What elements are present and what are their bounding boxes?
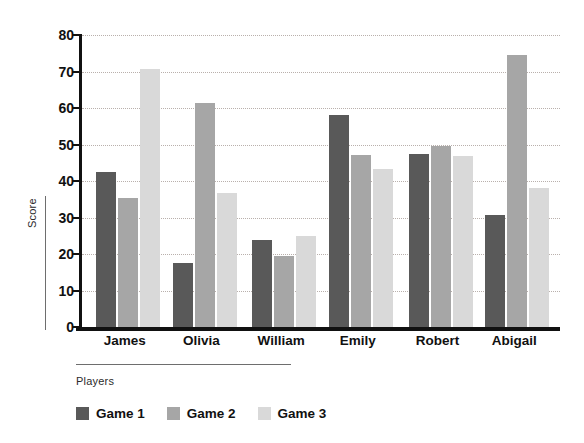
- bar[interactable]: [274, 256, 294, 327]
- x-axis-title: Players: [76, 375, 296, 387]
- y-axis-tick: [73, 290, 82, 292]
- legend-label: Game 2: [187, 406, 236, 421]
- x-axis-rule: [76, 364, 291, 365]
- bar[interactable]: [329, 115, 349, 327]
- bar[interactable]: [96, 172, 116, 327]
- legend-swatch-icon: [258, 407, 271, 420]
- y-axis-title: Score: [26, 148, 38, 228]
- legend-item[interactable]: Game 2: [167, 406, 236, 421]
- bar-group: [409, 35, 473, 327]
- legend-swatch-icon: [167, 407, 180, 420]
- bar[interactable]: [118, 198, 138, 327]
- bars-layer: [82, 35, 560, 327]
- bar[interactable]: [140, 69, 160, 327]
- bar[interactable]: [431, 146, 451, 327]
- bar-group: [96, 35, 160, 327]
- bar-group: [485, 35, 549, 327]
- x-axis-title-block: Players: [76, 364, 296, 387]
- bar[interactable]: [409, 154, 429, 327]
- chart-legend: Game 1Game 2Game 3: [76, 405, 348, 421]
- y-axis-tick-label: 0: [48, 320, 74, 334]
- bar[interactable]: [485, 215, 505, 327]
- y-axis-rule: [45, 196, 46, 330]
- plot-area: [79, 35, 560, 327]
- bar[interactable]: [373, 169, 393, 327]
- bar[interactable]: [507, 55, 527, 327]
- legend-item[interactable]: Game 1: [76, 406, 145, 421]
- bar[interactable]: [529, 188, 549, 327]
- x-axis-category-label: Abigail: [469, 333, 559, 348]
- y-axis-tick: [73, 34, 82, 36]
- y-axis-tick-label: 10: [48, 284, 74, 298]
- bar[interactable]: [217, 193, 237, 327]
- y-axis-tick: [73, 107, 82, 109]
- y-axis-tick-label: 30: [48, 211, 74, 225]
- bar[interactable]: [453, 156, 473, 327]
- y-axis-tick: [73, 253, 82, 255]
- y-axis-tick: [73, 71, 82, 73]
- legend-label: Game 3: [278, 406, 327, 421]
- x-axis-category-label: Olivia: [157, 333, 247, 348]
- bar-chart: Score 01020304050607080 JamesOliviaWilli…: [0, 0, 584, 443]
- legend-swatch-icon: [76, 407, 89, 420]
- bar-group: [252, 35, 316, 327]
- bar[interactable]: [351, 155, 371, 327]
- y-axis-tick-labels: 01020304050607080: [48, 0, 74, 443]
- x-axis-category-labels: JamesOliviaWilliamEmilyRobertAbigail: [79, 333, 557, 355]
- bar-group: [173, 35, 237, 327]
- bar[interactable]: [296, 236, 316, 327]
- bar[interactable]: [195, 103, 215, 327]
- y-axis-tick-label: 70: [48, 65, 74, 79]
- y-axis-tick-label: 20: [48, 247, 74, 261]
- legend-item[interactable]: Game 3: [258, 406, 327, 421]
- bar[interactable]: [173, 263, 193, 327]
- y-axis-tick-label: 60: [48, 101, 74, 115]
- bar-group: [329, 35, 393, 327]
- y-axis-tick: [73, 217, 82, 219]
- bar[interactable]: [252, 240, 272, 327]
- legend-label: Game 1: [96, 406, 145, 421]
- y-axis-tick-label: 80: [48, 28, 74, 42]
- y-axis-tick-label: 40: [48, 174, 74, 188]
- x-axis-line: [76, 327, 560, 331]
- y-axis-tick-label: 50: [48, 138, 74, 152]
- y-axis-tick: [73, 144, 82, 146]
- x-axis-category-label: Emily: [313, 333, 403, 348]
- y-axis-tick: [73, 180, 82, 182]
